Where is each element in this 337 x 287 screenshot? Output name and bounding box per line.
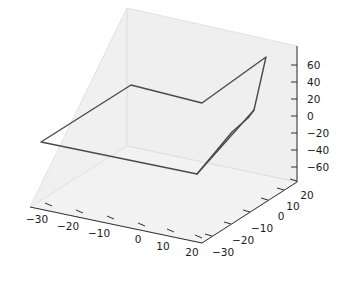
x-tick-label-4: 10 xyxy=(156,240,169,252)
figure-canvas: −30−20−1001020 −30−20−1001020 6040200−20… xyxy=(0,0,337,287)
y-tick-label-5: 20 xyxy=(300,189,313,201)
x-tick-label-0: −30 xyxy=(26,213,48,225)
z-tick-label-5: −40 xyxy=(307,144,329,156)
x-tick-label-3: 0 xyxy=(135,233,142,245)
z-tick-label-0: 60 xyxy=(307,59,320,71)
y-tick-label-0: −30 xyxy=(212,246,234,258)
x-tick-label-2: −10 xyxy=(88,227,110,239)
z-tick-label-1: 40 xyxy=(307,76,320,88)
y-tick-label-1: −20 xyxy=(232,234,254,246)
z-tick-label-4: −20 xyxy=(307,127,329,139)
z-tick-label-3: 0 xyxy=(307,110,314,122)
z-tick-label-2: 20 xyxy=(307,93,320,105)
z-tick-label-6: −60 xyxy=(307,161,329,173)
x-tick-label-5: 20 xyxy=(185,246,198,258)
y-tick-label-3: 0 xyxy=(278,210,285,222)
y-tick-label-4: 10 xyxy=(286,200,299,212)
x-tick-label-1: −20 xyxy=(57,220,79,232)
y-tick-label-2: −10 xyxy=(251,222,273,234)
z-axis-tick-labels: 6040200−20−40−60 xyxy=(307,59,329,173)
plot-svg: −30−20−1001020 −30−20−1001020 6040200−20… xyxy=(0,0,337,287)
